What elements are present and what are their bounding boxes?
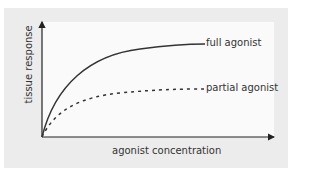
full-agonist-curve [42, 44, 205, 137]
partial-agonist-label: partial agonist [206, 82, 278, 93]
full-agonist-label: full agonist [206, 37, 261, 48]
partial-agonist-curve [42, 89, 205, 137]
y-axis-label: tissue response [23, 44, 34, 104]
x-axis-label: agonist concentration [112, 145, 221, 156]
